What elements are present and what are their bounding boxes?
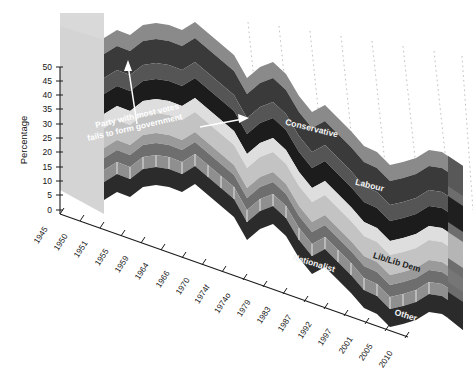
x-tick-label: 1979 <box>235 298 253 319</box>
x-tick-label: 1951 <box>72 239 90 260</box>
x-tick-label: 1992 <box>296 320 314 341</box>
x-tick-label: 1983 <box>255 305 273 326</box>
y-tick-label: 30 <box>43 119 53 129</box>
x-tick-label: 2010 <box>377 349 395 370</box>
stacked-area-chart-3d: 50 45 40 35 30 25 20 15 10 5 0 Percentag… <box>0 0 473 385</box>
right-end-cap <box>448 156 463 330</box>
y-tick-label: 25 <box>43 133 53 143</box>
y-tick-label: 45 <box>43 76 53 86</box>
y-tick-label: 10 <box>43 176 53 186</box>
x-tick-label: 1945 <box>32 225 50 246</box>
y-tick-label: 20 <box>43 147 53 157</box>
plot-backwall <box>60 13 104 214</box>
y-axis-title: Percentage <box>18 116 29 165</box>
y-tick-label: 50 <box>43 62 53 72</box>
y-axis: 50 45 40 35 30 25 20 15 10 5 0 Percentag… <box>18 62 63 215</box>
x-tick-label: 1974o <box>213 291 233 315</box>
x-tick-label: 1974f <box>193 283 212 306</box>
y-tick-label: 0 <box>47 205 52 215</box>
x-tick-label: 1970 <box>174 276 192 297</box>
x-tick-label: 1964 <box>133 261 151 282</box>
x-tick-label: 1950 <box>52 232 70 253</box>
x-tick-label: 1966 <box>154 269 172 290</box>
x-tick-label: 2001 <box>337 335 355 356</box>
y-tick-label: 5 <box>47 190 52 200</box>
x-tick-label: 1959 <box>113 254 131 275</box>
x-tick-label: 1987 <box>276 313 294 334</box>
x-tick-label: 1955 <box>93 247 111 268</box>
x-tick-label: 2005 <box>357 342 375 363</box>
y-tick-label: 40 <box>43 90 53 100</box>
chart-root: 50 45 40 35 30 25 20 15 10 5 0 Percentag… <box>0 0 473 385</box>
y-tick-label: 15 <box>43 162 53 172</box>
x-tick-label: 1997 <box>316 327 334 348</box>
y-tick-label: 35 <box>43 104 53 114</box>
